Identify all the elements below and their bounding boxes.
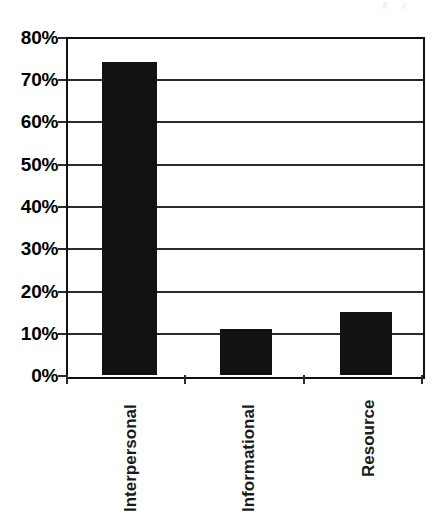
y-tick-mark-40 xyxy=(58,206,66,208)
y-tick-mark-60 xyxy=(58,121,66,123)
gridline-10 xyxy=(68,333,423,335)
y-tick-label-10: 10% xyxy=(2,324,58,343)
x-category-label-resource: Resource xyxy=(360,400,377,477)
y-tick-label-30: 30% xyxy=(2,239,58,258)
y-tick-label-80: 80% xyxy=(2,28,58,47)
y-tick-label-50: 50% xyxy=(2,155,58,174)
y-tick-label-60: 60% xyxy=(2,112,58,131)
y-tick-label-0: 0% xyxy=(2,366,58,385)
gridline-20 xyxy=(68,291,423,293)
x-tick-mark-1 xyxy=(184,375,186,384)
x-tick-mark-start xyxy=(66,375,68,384)
y-tick-mark-70 xyxy=(58,79,66,81)
gridline-60 xyxy=(68,121,423,123)
gridline-40 xyxy=(68,206,423,208)
y-tick-mark-30 xyxy=(58,248,66,250)
y-tick-mark-20 xyxy=(58,291,66,293)
y-tick-mark-50 xyxy=(58,164,66,166)
x-category-label-informational: Informational xyxy=(240,404,257,512)
y-tick-label-20: 20% xyxy=(2,282,58,301)
y-tick-label-70: 70% xyxy=(2,70,58,89)
plot-area xyxy=(66,37,425,379)
x-tick-mark-2 xyxy=(303,375,305,384)
scan-artifact xyxy=(352,2,438,9)
gridline-50 xyxy=(68,164,423,166)
bar-chart: 80% 70% 60% 50% 40% 30% 20% 10% 0% xyxy=(0,0,447,527)
x-tick-mark-end xyxy=(421,375,423,384)
y-tick-label-40: 40% xyxy=(2,197,58,216)
y-tick-mark-80 xyxy=(58,37,66,39)
y-tick-mark-10 xyxy=(58,333,66,335)
y-axis-label-group: 80% 70% 60% 50% 40% 30% 20% 10% 0% xyxy=(0,0,58,527)
y-tick-mark-0 xyxy=(58,375,66,377)
gridline-70 xyxy=(68,79,423,81)
gridline-30 xyxy=(68,248,423,250)
x-category-label-interpersonal: Interpersonal xyxy=(122,404,139,512)
